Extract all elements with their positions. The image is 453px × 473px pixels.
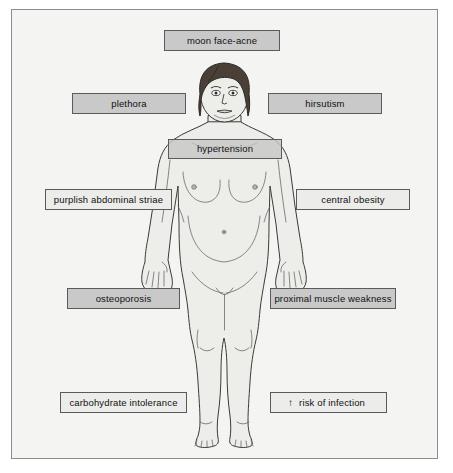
label-osteoporosis-text: osteoporosis — [92, 294, 156, 304]
up-arrow-icon: ↑ — [288, 398, 293, 408]
label-proximal-muscle-weakness[interactable]: proximal muscle weakness — [270, 288, 396, 309]
label-hypertension[interactable]: hypertension — [168, 139, 282, 159]
left-pupil — [215, 92, 218, 95]
label-central-obesity[interactable]: central obesity — [296, 189, 410, 210]
navel — [222, 230, 226, 234]
label-plethora-text: plethora — [107, 99, 151, 109]
mouth-shape — [217, 110, 232, 113]
label-osteoporosis[interactable]: osteoporosis — [67, 288, 180, 309]
label-risk-of-infection[interactable]: ↑ risk of infection — [270, 392, 387, 413]
figure-frame: moon face-acne plethora hirsutism hypert… — [11, 9, 438, 459]
right-nipple — [253, 185, 258, 190]
label-central-obesity-text: central obesity — [317, 195, 389, 205]
figure-root: moon face-acne plethora hirsutism hypert… — [0, 0, 453, 473]
label-proximal-muscle-weakness-text: proximal muscle weakness — [270, 294, 395, 304]
label-purplish-abdominal-striae[interactable]: purplish abdominal striae — [45, 189, 172, 210]
label-hypertension-text: hypertension — [193, 144, 257, 154]
female-body-illustration — [12, 10, 437, 458]
head-group — [199, 63, 250, 122]
label-hirsutism[interactable]: hirsutism — [268, 93, 382, 114]
left-nipple — [192, 185, 197, 190]
label-plethora[interactable]: plethora — [72, 93, 186, 114]
label-risk-of-infection-text: risk of infection — [295, 398, 369, 408]
label-moon-face-acne[interactable]: moon face-acne — [164, 30, 280, 51]
label-hirsutism-text: hirsutism — [301, 99, 348, 109]
right-pupil — [232, 92, 235, 95]
label-carbohydrate-intolerance-text: carbohydrate intolerance — [65, 398, 181, 408]
label-moon-face-acne-text: moon face-acne — [183, 36, 261, 46]
label-purplish-abdominal-striae-text: purplish abdominal striae — [50, 195, 167, 205]
label-carbohydrate-intolerance[interactable]: carbohydrate intolerance — [60, 392, 187, 413]
